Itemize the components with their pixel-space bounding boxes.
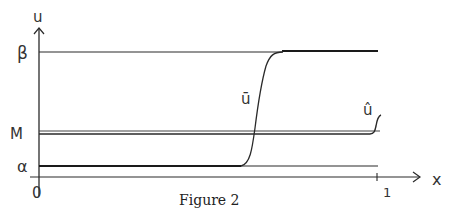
x-tick-0: 0 bbox=[32, 184, 42, 202]
x-tick-1-label: 1 bbox=[383, 185, 391, 200]
figure-canvas: u β M α 0 1 x ū û Figure 2 bbox=[0, 0, 457, 223]
y-tick-alpha: α bbox=[17, 157, 28, 176]
x-axis-label: x bbox=[432, 170, 441, 189]
u-bar-curve bbox=[241, 52, 283, 166]
u-hat-label: û bbox=[363, 101, 373, 119]
y-tick-beta: β bbox=[17, 43, 28, 63]
y-axis-label: u bbox=[33, 8, 43, 26]
u-bar-label: ū bbox=[241, 90, 251, 108]
y-tick-m: M bbox=[10, 125, 23, 143]
figure-caption: Figure 2 bbox=[179, 192, 240, 208]
